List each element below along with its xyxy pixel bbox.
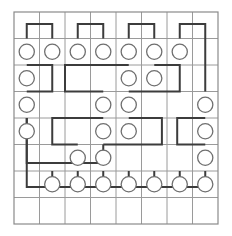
puzzle-diagram [0, 0, 232, 236]
puzzle-canvas [0, 0, 232, 236]
link-path [65, 65, 129, 92]
